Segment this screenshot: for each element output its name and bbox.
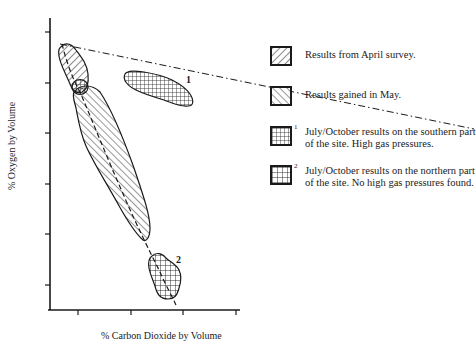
- legend-label: July/October results on the southern par…: [305, 126, 476, 150]
- legend-superscript: 2: [294, 162, 298, 170]
- y-axis-label: % Oxygen by Volume: [6, 102, 17, 190]
- legend-label: Results from April survey.: [305, 49, 416, 61]
- region-1-label: 1: [186, 74, 191, 85]
- legend-label-line1: July/October results on the southern par…: [305, 126, 476, 137]
- legend-superscript: 1: [294, 123, 298, 131]
- legend-label-line2: of the site. High gas pressures.: [305, 138, 434, 149]
- grid-swatch-icon: [270, 165, 292, 185]
- grid-fine-swatch-icon: [270, 126, 292, 146]
- region-may: [73, 86, 150, 241]
- x-axis: [48, 310, 240, 315]
- hatch-forward-swatch-icon: [270, 46, 292, 66]
- region-1: [124, 71, 193, 106]
- legend-label-line2: of the site. No high gas pressures found…: [305, 177, 474, 188]
- hatch-backward-swatch-icon: [270, 86, 292, 106]
- legend-label-line1: July/October results on the northern par…: [305, 165, 475, 176]
- legend-label: Results gained in May.: [305, 89, 401, 101]
- x-axis-label: % Carbon Dioxide by Volume: [101, 330, 222, 341]
- region-2-label: 2: [176, 254, 181, 265]
- legend-label: July/October results on the northern par…: [305, 165, 475, 189]
- y-axis: [45, 18, 50, 310]
